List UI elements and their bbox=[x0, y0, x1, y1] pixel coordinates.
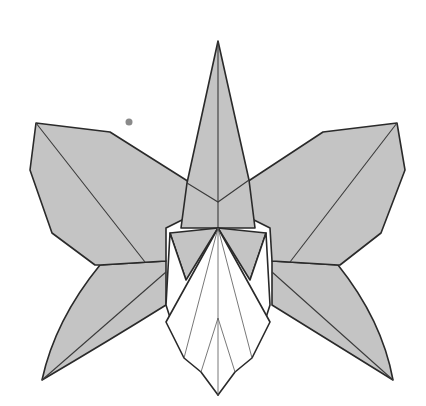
right-lateral-sepal bbox=[272, 261, 393, 380]
speck bbox=[126, 119, 133, 126]
orchid-diagram bbox=[0, 0, 426, 406]
dorsal-sepal bbox=[181, 41, 255, 228]
left-lateral-sepal bbox=[42, 261, 166, 380]
